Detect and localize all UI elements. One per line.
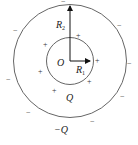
- svg-text:−: −: [90, 117, 95, 126]
- concentric-spheres-diagram: O R2 R1 Q −Q + + + + + + − − − − − − − −: [0, 0, 138, 145]
- svg-text:−: −: [13, 26, 18, 35]
- outer-charge-label: −Q: [54, 124, 69, 135]
- svg-text:−: −: [61, 0, 66, 6]
- center-label: O: [57, 57, 64, 68]
- svg-text:+: +: [76, 31, 81, 40]
- svg-text:+: +: [95, 56, 100, 65]
- outer-radius-label: R2: [55, 19, 65, 31]
- positive-charges: + + + + + +: [38, 31, 100, 95]
- negative-charges: − − − − − − − −: [6, 0, 132, 126]
- inner-radius-label: R1: [75, 64, 85, 76]
- svg-text:−: −: [120, 92, 125, 101]
- inner-charge-label: Q: [66, 92, 74, 103]
- svg-text:−: −: [6, 75, 11, 84]
- svg-text:+: +: [38, 67, 43, 76]
- svg-text:−: −: [127, 59, 132, 68]
- svg-text:+: +: [43, 40, 48, 49]
- svg-text:+: +: [52, 86, 57, 95]
- svg-text:+: +: [87, 77, 92, 86]
- svg-text:−: −: [26, 108, 31, 117]
- svg-text:−: −: [117, 21, 122, 30]
